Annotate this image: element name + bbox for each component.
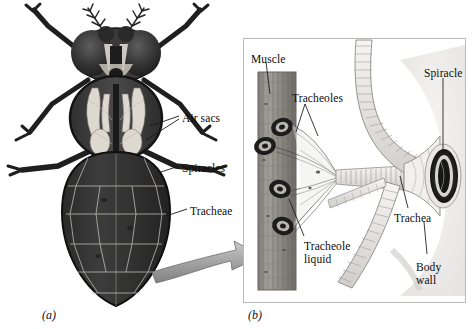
label-tracheole-liquid: Tracheole liquid [304,240,350,265]
label-spiracle: Spiracle [424,67,462,80]
label-air-sacs: Air sacs [182,112,220,125]
insect-thorax [70,76,162,160]
leader-spiracles [158,166,179,173]
label-trachea: Trachea [394,212,431,225]
caption-panel-a: (a) [42,308,56,323]
caption-panel-b: (b) [248,308,262,323]
label-body-wall: Body wall [416,261,441,286]
insect-head [71,26,161,82]
label-tracheoles: Tracheoles [292,92,343,105]
label-tracheae: Tracheae [190,205,233,218]
label-spiracles: Spiracles [182,162,225,175]
label-muscle: Muscle [251,53,285,66]
figure-insect-respiratory-system: Air sacs Spiracles Tracheae Muscle Trach… [0,0,476,329]
insect-abdomen [62,152,170,306]
